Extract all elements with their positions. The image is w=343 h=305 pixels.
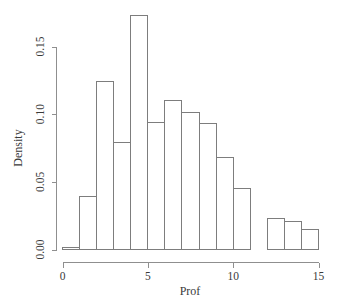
x-axis-title: Prof <box>180 284 201 298</box>
histogram-bar <box>182 113 199 250</box>
x-tick-label: 15 <box>313 270 325 282</box>
histogram-bar <box>148 122 165 249</box>
x-tick-label: 5 <box>145 270 151 282</box>
y-axis-ticks: 0.000.050.100.15 <box>34 36 57 259</box>
x-axis-ticks: 051015 <box>60 263 325 283</box>
y-tick-label: 0.00 <box>34 239 46 259</box>
histogram-bar <box>131 15 148 249</box>
x-tick-label: 0 <box>60 270 66 282</box>
histogram-bar <box>284 221 301 249</box>
y-axis-title: Density <box>11 129 25 166</box>
histogram-bar <box>267 218 284 249</box>
histogram-bar <box>165 101 182 250</box>
histogram-bar <box>233 189 250 250</box>
histogram-chart: 0.000.050.100.15 051015 Prof Density <box>0 0 343 305</box>
y-tick-label: 0.10 <box>34 104 46 124</box>
histogram-bar <box>63 247 80 249</box>
histogram-bar <box>301 229 318 249</box>
histogram-bars <box>63 15 319 249</box>
histogram-plot-area: 0.000.050.100.15 051015 Prof Density <box>0 0 343 305</box>
histogram-bar <box>80 197 97 250</box>
histogram-bar <box>199 124 216 250</box>
histogram-bar <box>97 82 114 250</box>
y-tick-label: 0.05 <box>34 172 46 192</box>
histogram-bar <box>114 143 131 250</box>
y-tick-label: 0.15 <box>34 36 46 56</box>
histogram-bar <box>216 157 233 249</box>
x-tick-label: 10 <box>227 270 239 282</box>
